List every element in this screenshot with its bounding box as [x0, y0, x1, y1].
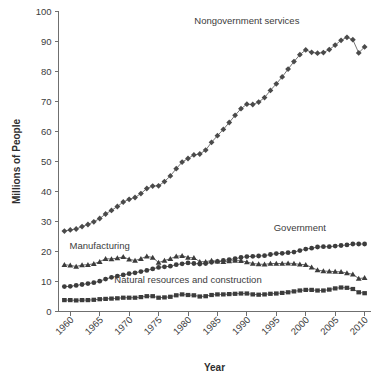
marker-square [109, 297, 114, 301]
marker-square [103, 297, 108, 301]
marker-circle [250, 254, 255, 259]
marker-circle [80, 282, 85, 287]
marker-square [339, 285, 344, 289]
marker-triangle [179, 253, 185, 258]
marker-square [303, 288, 308, 292]
y-tick-label: 0 [46, 306, 51, 317]
marker-square [203, 294, 208, 298]
marker-triangle [309, 265, 315, 270]
y-tick-label: 90 [41, 36, 52, 47]
marker-square [345, 286, 350, 290]
x-tick-label: 1980 [171, 314, 194, 337]
marker-triangle [144, 254, 150, 259]
marker-circle [297, 248, 302, 253]
y-tick-label: 80 [41, 66, 52, 77]
marker-square [133, 296, 138, 300]
marker-square [351, 287, 356, 291]
marker-square [97, 297, 102, 301]
marker-square [174, 293, 179, 297]
marker-square [197, 294, 202, 298]
marker-square [321, 288, 326, 292]
marker-diamond [250, 102, 256, 108]
marker-triangle [362, 275, 368, 280]
marker-triangle [126, 257, 132, 262]
marker-circle [350, 242, 355, 247]
marker-diamond [150, 183, 156, 189]
marker-square [156, 296, 161, 300]
chart-figure: 0102030405060708090100196019651970197519… [0, 0, 391, 381]
marker-diamond [91, 219, 97, 225]
marker-square [292, 289, 297, 293]
marker-square [333, 286, 338, 290]
annotation-government: Government [274, 222, 327, 233]
marker-circle [191, 261, 196, 266]
marker-circle [186, 261, 191, 266]
marker-circle [74, 283, 79, 288]
marker-square [180, 292, 185, 296]
marker-circle [292, 250, 297, 255]
y-tick-label: 30 [41, 216, 52, 227]
marker-square [274, 291, 279, 295]
marker-circle [150, 267, 155, 272]
x-tick-label: 2000 [288, 314, 311, 337]
marker-circle [86, 281, 91, 286]
marker-circle [321, 244, 326, 249]
x-tick-label: 1960 [53, 314, 76, 337]
marker-square [150, 294, 155, 298]
marker-diamond [79, 224, 85, 230]
marker-circle [180, 261, 185, 266]
marker-diamond [67, 227, 73, 233]
x-tick-label: 2005 [318, 314, 341, 337]
marker-square [286, 290, 291, 294]
marker-triangle [315, 267, 321, 272]
series-natural-resources-and-construction [62, 285, 367, 302]
employment-by-sector-line-chart: 0102030405060708090100196019651970197519… [0, 0, 391, 381]
marker-diamond [156, 183, 162, 189]
marker-triangle [138, 256, 144, 261]
marker-square [362, 291, 367, 295]
marker-circle [286, 250, 291, 255]
marker-square [192, 293, 197, 297]
marker-square [92, 298, 97, 302]
marker-square [221, 292, 226, 296]
marker-square [68, 298, 73, 302]
y-axis-title: Millions of People [11, 119, 22, 204]
footer-clipped-text [0, 376, 391, 381]
annotation-natural-resources-and-construction: Natural resources and construction [114, 274, 261, 285]
marker-diamond [350, 37, 356, 43]
marker-triangle [120, 254, 126, 259]
marker-triangle [61, 262, 67, 267]
marker-square [186, 293, 191, 297]
marker-triangle [167, 256, 173, 261]
marker-circle [303, 247, 308, 252]
marker-square [356, 290, 361, 294]
series-nongovernment-services [61, 34, 367, 234]
marker-circle [103, 277, 108, 282]
marker-diamond [309, 49, 315, 55]
marker-circle [262, 253, 267, 258]
marker-circle [345, 243, 350, 248]
marker-square [74, 298, 79, 302]
marker-circle [144, 268, 149, 273]
marker-circle [339, 243, 344, 248]
marker-square [139, 295, 144, 299]
x-tick-label: 1995 [259, 314, 282, 337]
marker-circle [315, 245, 320, 250]
marker-diamond [185, 156, 191, 162]
marker-square [227, 292, 232, 296]
marker-square [245, 291, 250, 295]
y-tick-label: 20 [41, 246, 52, 257]
series-line [64, 37, 364, 231]
x-axis-title: Year [204, 362, 225, 373]
annotation-nongovernment-services: Nongovernment services [194, 15, 299, 26]
marker-circle [162, 264, 167, 269]
marker-diamond [321, 50, 327, 56]
marker-square [62, 298, 67, 302]
marker-circle [280, 251, 285, 256]
marker-circle [256, 254, 261, 259]
marker-square [315, 288, 320, 292]
marker-circle [362, 242, 367, 247]
marker-square [115, 296, 120, 300]
marker-diamond [126, 196, 132, 202]
marker-diamond [61, 228, 67, 234]
